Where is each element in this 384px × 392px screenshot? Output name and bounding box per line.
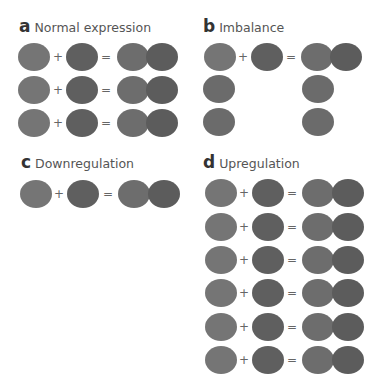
plus-sign: + [239, 320, 249, 334]
subunit-b-ellipse [252, 279, 284, 307]
complex-a-ellipse [302, 246, 334, 274]
complex-b-ellipse [332, 313, 364, 341]
panel-title: Upregulation [219, 156, 300, 171]
equals-sign: = [287, 253, 297, 267]
subunit-b-ellipse [252, 213, 284, 241]
complex-a-ellipse [302, 346, 334, 374]
subunit-a-ellipse [205, 346, 237, 374]
complex-a-ellipse [302, 179, 334, 207]
subunit-b-ellipse [252, 313, 284, 341]
plus-sign: + [239, 253, 249, 267]
complex-b-ellipse [332, 213, 364, 241]
subunit-a-ellipse [205, 279, 237, 307]
equals-sign: = [287, 353, 297, 367]
equals-sign: = [287, 186, 297, 200]
panel-d-label: dUpregulation [203, 154, 300, 172]
complex-b-ellipse [146, 43, 178, 71]
complex-b-ellipse [146, 109, 178, 137]
complex-b-ellipse [148, 180, 180, 208]
subunit-a-ellipse [205, 246, 237, 274]
complex-a-ellipse [302, 279, 334, 307]
plus-sign: + [239, 286, 249, 300]
complex-b-ellipse [332, 246, 364, 274]
subunit-b-ellipse [252, 346, 284, 374]
subunit-a-ellipse [205, 213, 237, 241]
plus-sign: + [239, 220, 249, 234]
complex-b-ellipse [146, 76, 178, 104]
subunit-b-ellipse [252, 179, 284, 207]
complex-b-ellipse [330, 43, 362, 71]
subunit-a-ellipse [205, 179, 237, 207]
complex-b-ellipse [332, 279, 364, 307]
equals-sign: = [287, 220, 297, 234]
panel-d-upregulation: dUpregulation + = + = + = + = + = + = [0, 0, 384, 392]
subunit-b-ellipse [252, 246, 284, 274]
equals-sign: = [287, 320, 297, 334]
panel-letter: d [203, 152, 215, 172]
complex-b-ellipse [332, 346, 364, 374]
complex-b-ellipse [332, 179, 364, 207]
equals-sign: = [287, 286, 297, 300]
complex-a-ellipse [302, 213, 334, 241]
complex-a-ellipse [302, 313, 334, 341]
subunit-a-ellipse [205, 313, 237, 341]
plus-sign: + [239, 353, 249, 367]
plus-sign: + [239, 186, 249, 200]
